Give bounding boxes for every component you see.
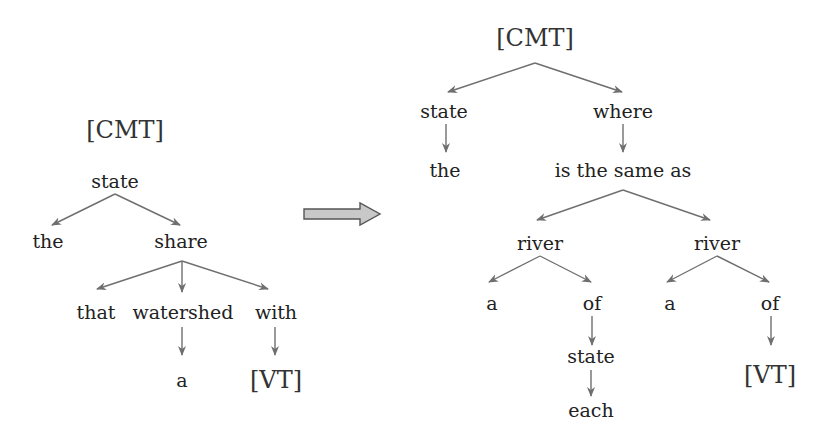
tree-node-l_the: the: [32, 232, 63, 251]
tree-node-r_where: where: [593, 102, 653, 121]
edge-arrow-icon: [535, 63, 622, 92]
edge-arrow-icon: [667, 256, 717, 282]
tree-node-l_that: that: [77, 303, 116, 322]
edge-arrow-icon: [115, 194, 180, 225]
edge-arrow-icon: [97, 261, 182, 289]
tree-node-l_root: state: [91, 172, 139, 191]
tree-node-r_each: each: [568, 401, 613, 420]
tree-node-r_root: [CMT]: [496, 26, 574, 50]
diagram-canvas: [CMT] statethesharethatwatershedwitha[VT…: [0, 0, 828, 439]
tree-edges: [0, 0, 828, 439]
edge-arrow-icon: [52, 194, 115, 225]
tree-node-r_vt: [VT]: [744, 363, 796, 387]
tree-node-r_a1: a: [486, 294, 497, 313]
edge-arrow-icon: [540, 256, 591, 282]
edge-arrow-icon: [489, 256, 540, 282]
edge-arrow-icon: [717, 256, 769, 282]
tree-node-r_of1: of: [583, 294, 601, 313]
tree-node-r_state: state: [420, 102, 468, 121]
left-tree-label: [CMT]: [86, 118, 164, 142]
tree-node-r_same: is the same as: [555, 161, 691, 180]
tree-node-r_of2: of: [761, 294, 779, 313]
tree-node-l_vt: [VT]: [250, 368, 302, 392]
tree-node-l_watershed: watershed: [133, 303, 234, 322]
tree-node-r_a2: a: [664, 294, 675, 313]
tree-node-r_state2: state: [567, 347, 615, 366]
tree-node-r_river1: river: [517, 234, 563, 253]
edge-arrow-icon: [182, 261, 268, 289]
edge-arrow-icon: [623, 190, 710, 220]
edge-arrow-icon: [448, 63, 535, 92]
tree-node-l_with: with: [255, 303, 297, 322]
edge-arrow-icon: [537, 190, 623, 220]
tree-node-r_the: the: [429, 161, 460, 180]
transform-arrow-icon: [304, 203, 380, 225]
tree-node-l_a: a: [176, 371, 187, 390]
tree-node-r_river2: river: [694, 234, 740, 253]
tree-node-l_share: share: [154, 232, 208, 251]
